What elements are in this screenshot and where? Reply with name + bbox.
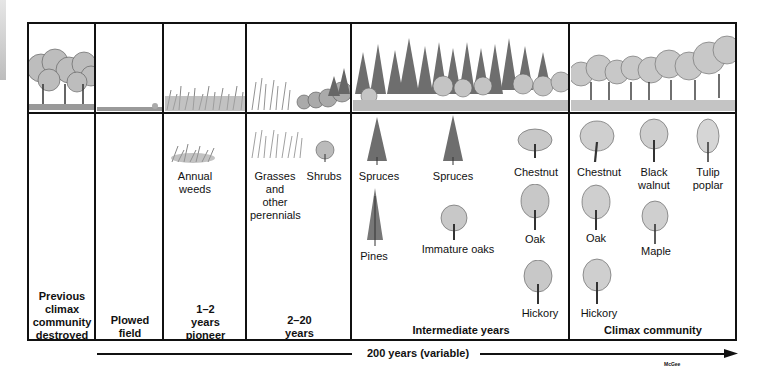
plant-label-maple: Maple bbox=[634, 245, 678, 258]
chestnut-tree-icon bbox=[517, 128, 553, 158]
arrow-head-icon bbox=[724, 348, 738, 359]
tulip-poplar-tree-icon bbox=[695, 118, 721, 162]
row-divider bbox=[27, 112, 737, 114]
column-divider bbox=[568, 22, 570, 341]
plant-label-oak: Oak bbox=[515, 233, 555, 246]
plant-label-hickory: Hickory bbox=[574, 307, 624, 320]
plant-label-black-walnut: Blackwalnut bbox=[630, 166, 678, 192]
illustrator-credit: McGee bbox=[664, 361, 680, 366]
oak-tree-icon bbox=[580, 184, 612, 230]
timeline-label: 200 years (variable) bbox=[358, 347, 478, 360]
pine-icon bbox=[364, 188, 386, 246]
stage-label-perennials: 2–20years bbox=[248, 314, 351, 340]
stage-label-plowed: Plowedfield bbox=[97, 314, 163, 340]
hickory-tree-icon bbox=[523, 260, 553, 304]
timeline-arrow-line bbox=[97, 353, 352, 355]
spruce-icon bbox=[441, 115, 465, 165]
plant-label-shrubs: Shrubs bbox=[303, 170, 345, 183]
maple-tree-icon bbox=[640, 200, 670, 244]
plant-label-chestnut: Chestnut bbox=[510, 166, 562, 179]
plant-label-pines: Pines bbox=[354, 250, 394, 263]
plant-label-chestnut: Chestnut bbox=[573, 166, 625, 179]
plant-label-oak: Oak bbox=[576, 232, 616, 245]
chestnut-tree-icon bbox=[579, 120, 615, 162]
stage-label-destroyed: Previousclimaxcommunitydestroyed bbox=[29, 290, 95, 342]
plant-label-grasses: Grassesandotherperennials bbox=[250, 170, 300, 222]
page-edge-shadow bbox=[0, 0, 6, 80]
stage-label-pioneer: 1–2yearspioneer bbox=[165, 303, 246, 342]
plant-label-immature-oaks: Immature oaks bbox=[418, 243, 498, 256]
shrub-icon bbox=[313, 140, 337, 164]
black-walnut-tree-icon bbox=[638, 118, 670, 162]
timeline-arrow-line bbox=[480, 353, 728, 355]
spruce-icon bbox=[365, 117, 389, 165]
stage-label-intermediate: Intermediate years bbox=[353, 324, 569, 337]
plant-label-spruces: Spruces bbox=[354, 170, 404, 183]
column-divider bbox=[245, 22, 247, 341]
stage-label-climax: Climax community bbox=[571, 324, 735, 337]
plant-label-spruces: Spruces bbox=[428, 170, 478, 183]
plant-label-tulip-poplar: Tulippoplar bbox=[684, 166, 732, 192]
oak-tree-icon bbox=[520, 184, 550, 230]
plant-label-annual-weeds: Annualweeds bbox=[170, 170, 220, 196]
hickory-tree-icon bbox=[581, 258, 613, 304]
column-divider bbox=[162, 22, 164, 341]
plant-label-hickory: Hickory bbox=[515, 307, 565, 320]
immature-oak-icon bbox=[439, 204, 469, 240]
annual-weeds-icon bbox=[170, 142, 216, 164]
grasses-icon bbox=[250, 128, 304, 160]
column-divider bbox=[350, 22, 352, 341]
